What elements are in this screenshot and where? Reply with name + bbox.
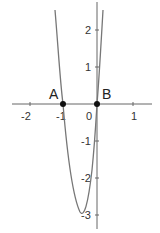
- point-b-label: B: [102, 86, 111, 102]
- function-graph: -2 -1 0 1 2 1 -1 -2 -3 A B: [0, 0, 160, 233]
- point-b[interactable]: [94, 101, 100, 107]
- point-a-label: A: [49, 86, 59, 102]
- y-tick-label: -2: [81, 172, 91, 184]
- x-tick-label: 1: [131, 110, 137, 122]
- y-tick-label: -3: [81, 209, 91, 221]
- point-a[interactable]: [60, 101, 66, 107]
- x-tick-label: -2: [21, 110, 31, 122]
- x-tick-label: 0: [86, 110, 92, 122]
- y-tick-label: 1: [85, 61, 91, 73]
- y-tick-label: -1: [81, 135, 91, 147]
- y-tick-label: 2: [85, 24, 91, 36]
